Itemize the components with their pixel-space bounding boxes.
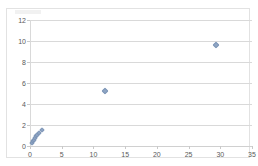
y-axis-tick-label: 12 [18,17,26,24]
y-axis-tick-label: 8 [22,59,26,66]
x-axis-tick-label: 10 [90,151,98,158]
y-gridline [30,125,252,126]
y-tick-mark [27,104,30,105]
x-tick-mark [220,146,221,149]
x-tick-mark [157,146,158,149]
x-axis-tick-label: 25 [185,151,193,158]
y-gridline [30,83,252,84]
x-axis-tick-label: 0 [28,151,32,158]
x-axis-tick-label: 30 [216,151,224,158]
x-tick-mark [93,146,94,149]
data-point [101,87,108,94]
y-axis-tick-label: 6 [22,80,26,87]
x-tick-mark [62,146,63,149]
x-tick-mark [189,146,190,149]
y-axis-tick-label: 4 [22,101,26,108]
y-tick-mark [27,41,30,42]
y-tick-mark [27,20,30,21]
chart-frame: 02468101205101520253035 [6,8,250,158]
y-gridline [30,41,252,42]
x-axis-tick-label: 15 [121,151,129,158]
x-axis-tick-label: 35 [248,151,256,158]
x-tick-mark [125,146,126,149]
data-point [39,127,45,133]
y-axis-tick-label: 0 [22,143,26,150]
y-axis-tick-label: 2 [22,122,26,129]
y-gridline [30,20,252,21]
y-gridline [30,104,252,105]
plot-area: 02468101205101520253035 [30,20,252,146]
data-point [213,42,220,49]
y-tick-mark [27,125,30,126]
y-axis-tick-label: 10 [18,38,26,45]
x-tick-mark [30,146,31,149]
y-gridline [30,146,252,147]
y-tick-mark [27,83,30,84]
y-gridline [30,62,252,63]
x-tick-mark [252,146,253,149]
top-artifact [15,10,41,14]
y-tick-mark [27,62,30,63]
x-axis-tick-label: 5 [60,151,64,158]
x-axis-tick-label: 20 [153,151,161,158]
